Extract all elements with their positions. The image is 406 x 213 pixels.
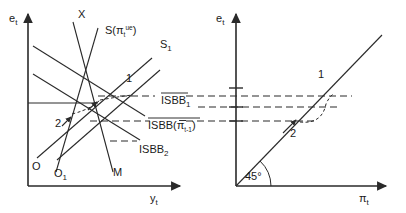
right-label-point-2: 2 (290, 127, 296, 139)
label-curve-x: X (78, 8, 86, 20)
label-origin: O (32, 160, 41, 172)
right-panel (186, 14, 386, 186)
left-y-axis-label: et (9, 12, 18, 27)
right-x-axis-label: πt (359, 192, 370, 207)
angle-arc (260, 161, 271, 186)
economics-diagram: et yt X S(πtue) S1 M O O1 1 2 ISBB1 ISBB… (0, 0, 406, 213)
curve-supply-expected (37, 58, 152, 158)
forty-five-degree-line (236, 35, 382, 186)
left-x-axis-label: yt (150, 192, 159, 207)
right-adjustment-path (300, 93, 334, 122)
left-label-point-2: 2 (55, 117, 61, 129)
curve-m (56, 28, 98, 172)
right-y-axis-label: et (216, 12, 225, 27)
label-supply-1: S1 (160, 38, 172, 53)
label-angle-45: 45° (245, 170, 262, 182)
label-isbb-2: ISBB2 (139, 143, 169, 158)
label-curve-m: M (113, 166, 122, 178)
diagram-canvas: et yt X S(πtue) S1 M O O1 1 2 ISBB1 ISBB… (0, 0, 406, 213)
curve-isbb-2 (33, 74, 140, 140)
label-supply-expected: S(πtue) (105, 24, 136, 38)
right-label-point-1: 1 (318, 68, 324, 80)
label-origin-1: O1 (54, 167, 68, 182)
left-label-point-1: 1 (126, 72, 132, 84)
